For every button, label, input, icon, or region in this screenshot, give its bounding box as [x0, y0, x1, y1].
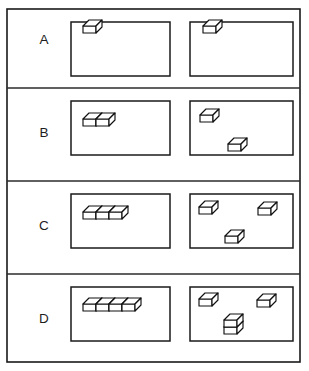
cube-front-face: [96, 119, 109, 126]
cube-front-face: [109, 304, 122, 311]
cube-front-face: [257, 300, 270, 307]
cube-front-face: [96, 304, 109, 311]
cube-front-face: [224, 320, 237, 327]
cube-front-face: [109, 212, 122, 219]
row-label-d: D: [39, 311, 49, 326]
diagram-row-a: A: [39, 20, 293, 76]
cube-front-face: [200, 115, 213, 122]
left-panel-b: [71, 101, 170, 155]
left-panel-d: [71, 287, 170, 341]
row-label-a: A: [39, 32, 48, 47]
diagram-row-d: D: [39, 287, 293, 341]
block-comparison-diagram: ABCD: [0, 0, 309, 371]
block-stack: [224, 314, 243, 334]
row-label-b: B: [39, 125, 48, 140]
cube-front-face: [224, 327, 237, 334]
cube-front-face: [83, 26, 96, 33]
row-label-c: C: [39, 218, 49, 233]
cube-front-face: [83, 119, 96, 126]
joined-block-group-c: [83, 206, 128, 219]
cube-front-face: [96, 212, 109, 219]
joined-block-group-d: [83, 298, 141, 311]
diagram-row-b: B: [39, 101, 293, 155]
left-panel-c: [71, 194, 170, 248]
joined-block-group-b: [83, 113, 115, 126]
cube-front-face: [258, 208, 271, 215]
cube-front-face: [199, 299, 212, 306]
cube-front-face: [225, 236, 238, 243]
cube-front-face: [203, 26, 216, 33]
cube-front-face: [228, 144, 241, 151]
diagram-row-c: C: [39, 194, 293, 248]
cube-front-face: [83, 304, 96, 311]
cube-front-face: [122, 304, 135, 311]
cube-front-face: [83, 212, 96, 219]
cube-front-face: [199, 207, 212, 214]
figure-container: ABCD: [0, 0, 309, 371]
